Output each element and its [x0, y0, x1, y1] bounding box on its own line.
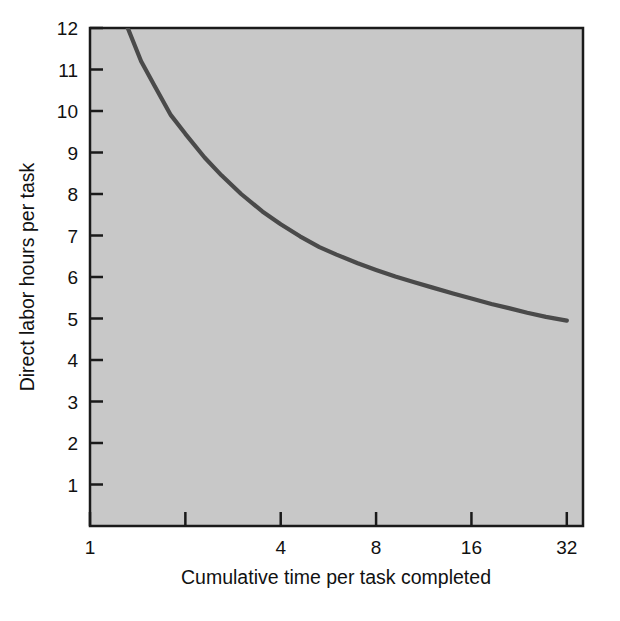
y-axis-tick-label: 11: [58, 60, 78, 81]
y-axis-tick-label: 3: [67, 392, 78, 413]
y-axis-tick-label: 8: [67, 184, 78, 205]
y-axis-tick-label: 12: [57, 18, 78, 39]
x-axis-title: Cumulative time per task completed: [181, 566, 491, 588]
x-axis-tick-label: 16: [461, 537, 482, 558]
x-axis-tick-label: 32: [556, 537, 577, 558]
y-axis-title: Direct labor hours per task: [16, 162, 38, 391]
y-axis-tick-label: 2: [67, 433, 78, 454]
y-axis-tick-label: 6: [67, 267, 78, 288]
chart-figure: 123456789101112 1481632 Cumulative time …: [0, 0, 620, 621]
y-axis-tick-label: 10: [57, 101, 78, 122]
x-axis-tick-label: 8: [371, 537, 382, 558]
learning-curve-chart: 123456789101112 1481632 Cumulative time …: [0, 0, 620, 621]
y-axis-tick-label: 7: [67, 226, 78, 247]
x-axis-tick-label: 4: [275, 537, 286, 558]
y-axis-tick-label: 5: [67, 309, 78, 330]
y-axis-tick-label: 4: [67, 350, 78, 371]
y-axis-tick-label: 1: [67, 475, 78, 496]
y-axis-tick-label: 9: [67, 143, 78, 164]
x-axis-tick-label: 1: [85, 537, 96, 558]
